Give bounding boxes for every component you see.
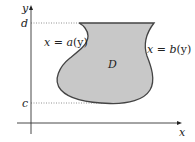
lower-bound-label-c: c: [22, 97, 28, 110]
left-curve-label: x = a(y): [44, 36, 88, 49]
x-axis-label: x: [179, 126, 186, 139]
region-diagram: y x d c D x = a(y) x = b(y): [0, 0, 195, 142]
upper-bound-label-d: d: [21, 17, 28, 30]
y-axis-label: y: [21, 2, 29, 15]
right-curve-label: x = b(y): [147, 43, 191, 56]
x-axis-arrow-icon: [177, 121, 182, 125]
y-axis-arrow-icon: [29, 5, 33, 10]
region-label-d: D: [107, 58, 117, 71]
